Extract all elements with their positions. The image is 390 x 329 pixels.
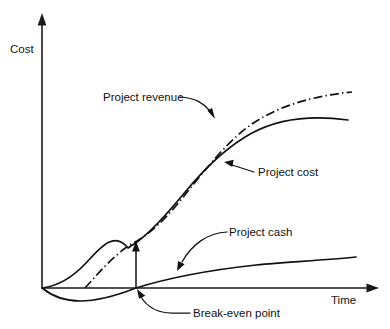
break-even-gap-arrowhead <box>132 241 140 252</box>
y-axis-label: Cost <box>10 43 34 55</box>
break-even-leader-arrowhead <box>137 289 145 299</box>
project-cash-leader <box>182 232 227 262</box>
x-axis-arrowhead <box>367 284 380 293</box>
break-even-leader <box>141 297 190 313</box>
project-cost-leader <box>232 165 254 172</box>
project-cost-leader-arrowhead <box>224 160 234 167</box>
axis-group <box>38 13 379 292</box>
y-axis-arrowhead <box>38 13 47 26</box>
chart-canvas: Project revenue Project cost Project cas… <box>0 0 390 329</box>
project-revenue-label: Project revenue <box>103 91 184 103</box>
break-even-point-label: Break-even point <box>193 307 281 319</box>
project-cash-leader-arrowhead <box>177 261 185 271</box>
project-cash-curve <box>42 257 356 301</box>
project-cost-label: Project cost <box>258 166 319 178</box>
annotation-break-even-point: Break-even point <box>137 289 281 319</box>
project-revenue-leader <box>180 97 210 111</box>
project-breakeven-diagram: Project revenue Project cost Project cas… <box>0 0 390 329</box>
annotation-project-cost: Project cost <box>224 160 319 178</box>
project-revenue-curve <box>85 92 352 288</box>
break-even-gap-arrow <box>132 241 140 288</box>
project-cash-label: Project cash <box>229 226 292 238</box>
x-axis-label: Time <box>331 294 356 306</box>
annotation-project-revenue: Project revenue <box>103 91 215 119</box>
project-cost-curve <box>42 118 348 288</box>
